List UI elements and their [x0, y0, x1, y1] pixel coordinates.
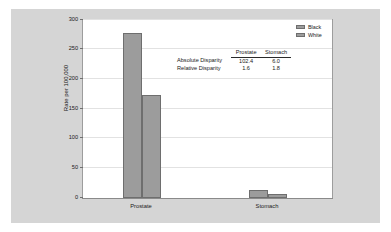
y-axis: 300 250 200 150 100 50 0 Rate per 100,00…: [48, 0, 78, 232]
y-tick-label-50: 50: [52, 164, 78, 170]
gridline-200: [83, 78, 332, 79]
y-axis-title: Rate per 100,000: [63, 43, 69, 133]
cell-absolute-stomach: 6.0: [261, 57, 291, 65]
legend-swatch-icon: [296, 25, 305, 30]
y-tick-label-100: 100: [52, 134, 78, 140]
table-row: Relative Disparity 1.6 1.8: [177, 65, 291, 73]
bar-prostate-white: [142, 95, 161, 198]
y-tick-mark-0: [80, 197, 83, 198]
y-tick-mark-150: [80, 108, 83, 109]
legend-item-black: Black: [296, 23, 322, 31]
y-tick-mark-100: [80, 137, 83, 138]
gridline-150: [83, 108, 332, 109]
row-label-relative-disparity: Relative Disparity: [177, 65, 231, 73]
cell-relative-prostate: 1.6: [231, 65, 261, 73]
x-tick-label-stomach: Stomach: [227, 203, 307, 209]
bar-prostate-black: [123, 33, 142, 198]
y-tick-label-0: 0: [52, 194, 78, 200]
gridline-100: [83, 137, 332, 138]
cell-relative-stomach: 1.8: [261, 65, 291, 73]
gridline-50: [83, 167, 332, 168]
x-tick-label-prostate: Prostate: [101, 203, 181, 209]
table-corner-blank: [177, 49, 231, 57]
figure-canvas: Prostate Stomach Absolute Disparity 102.…: [0, 0, 391, 232]
plot-area: Prostate Stomach Absolute Disparity 102.…: [82, 19, 333, 198]
row-label-absolute-disparity: Absolute Disparity: [177, 57, 231, 65]
y-tick-mark-50: [80, 167, 83, 168]
table-row: Absolute Disparity 102.4 6.0: [177, 57, 291, 65]
legend-swatch-icon: [296, 33, 305, 38]
y-tick-label-300: 300: [52, 16, 78, 22]
bar-stomach-black: [249, 190, 268, 198]
table-col-header-stomach: Stomach: [261, 49, 291, 57]
disparity-table: Prostate Stomach Absolute Disparity 102.…: [177, 49, 291, 73]
y-tick-mark-300: [80, 19, 83, 20]
table-col-header-prostate: Prostate: [231, 49, 261, 57]
gridline-300: [83, 19, 332, 20]
legend-label-white: White: [308, 32, 322, 38]
x-axis-line: [82, 198, 333, 199]
legend-label-black: Black: [308, 24, 321, 30]
chart-legend: Black White: [296, 23, 322, 39]
table-header-row: Prostate Stomach: [177, 49, 291, 57]
y-tick-mark-250: [80, 48, 83, 49]
y-tick-mark-200: [80, 78, 83, 79]
cell-absolute-prostate: 102.4: [231, 57, 261, 65]
legend-item-white: White: [296, 31, 322, 39]
